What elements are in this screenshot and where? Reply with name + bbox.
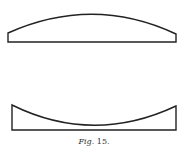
plano-convex-lens <box>8 14 176 42</box>
caption-number: 15. <box>97 137 110 146</box>
caption-prefix: Fig. <box>78 137 94 146</box>
plano-concave-lens <box>12 105 176 130</box>
figure-caption: Fig. 15. <box>0 137 188 146</box>
